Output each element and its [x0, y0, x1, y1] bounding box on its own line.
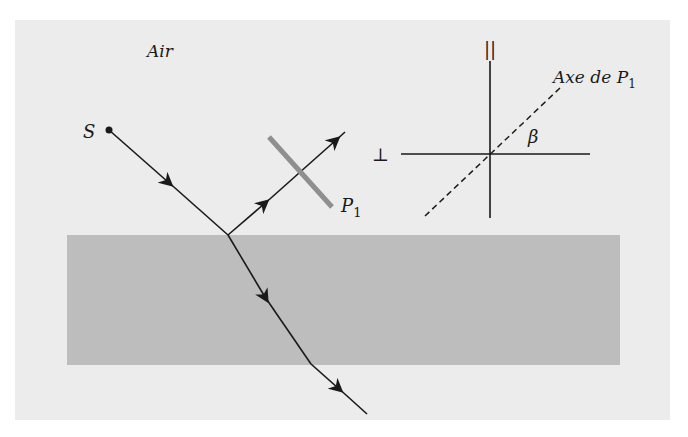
perpendicular-symbol: ⊥: [372, 144, 389, 165]
optics-diagram: Air S P1 || ⊥ β Axe de P1: [0, 0, 688, 437]
air-label: Air: [145, 41, 174, 61]
source-label: S: [83, 121, 95, 142]
parallel-symbol: ||: [484, 38, 496, 60]
angle-beta-label: β: [527, 126, 538, 147]
glass-slab: [67, 235, 620, 365]
